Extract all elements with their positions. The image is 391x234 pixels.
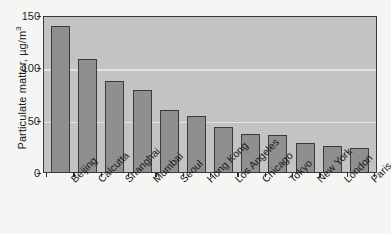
x-label-hong-kong: Hong Kong <box>205 177 213 185</box>
x-label-beijing: Beijing <box>69 177 77 185</box>
x-label-shanghai: Shanghai <box>123 177 131 185</box>
y-tick-mark <box>37 121 41 122</box>
bar-beijing[interactable] <box>51 26 70 172</box>
bar-slot <box>101 17 128 172</box>
x-label-paris: Paris <box>369 177 377 185</box>
x-axis-category-labels: BeijingCalcuttaShanghaiMumbaiSeoulHong K… <box>43 177 377 234</box>
y-tick-mark <box>37 68 41 69</box>
x-label-calcutta: Calcutta <box>96 177 104 185</box>
bar-slot <box>47 17 74 172</box>
bars-layer <box>44 17 376 172</box>
x-label-new-york: New York <box>315 177 323 185</box>
bar-slot <box>74 17 101 172</box>
bar-slot <box>292 17 319 172</box>
x-label-mumbai: Mumbai <box>151 177 159 185</box>
x-label-chicago: Chicago <box>260 177 268 185</box>
particulate-matter-bar-chart: Particulate matter, µg/m3 050100150 Beij… <box>0 0 391 234</box>
y-tick-mark <box>37 16 41 17</box>
bar-slot <box>156 17 183 172</box>
y-tick-mark <box>37 173 41 174</box>
plot-area <box>43 16 377 173</box>
x-label-seoul: Seoul <box>178 177 186 185</box>
x-label-los-angeles: Los Angeles <box>233 177 241 185</box>
y-axis-ticks: 050100150 <box>8 0 40 234</box>
x-label-tokyo: Tokyo <box>287 177 295 185</box>
bar-slot <box>183 17 210 172</box>
x-label-london: London <box>342 177 350 185</box>
